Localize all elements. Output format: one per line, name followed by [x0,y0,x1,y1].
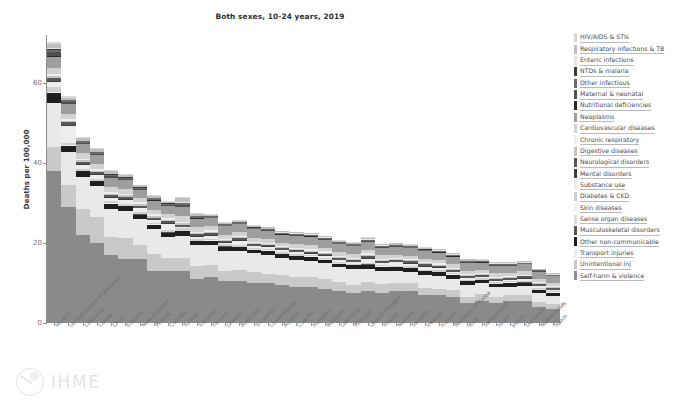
legend-item[interactable]: Other infectious [574,77,694,88]
segment [61,207,75,323]
bar-united-kingdom[interactable] [361,35,375,323]
legend-label: Mental disorders [580,169,632,180]
segment [218,226,232,234]
bar-netherlands[interactable] [532,35,546,323]
segment [318,279,332,289]
bar-sweden[interactable] [403,35,417,323]
legend-item[interactable]: Nutritional deficiencies [574,100,694,111]
ihme-globe-icon [16,368,44,396]
legend-label: Other non-communicable [580,237,659,248]
legend-swatch [574,181,577,190]
legend-item[interactable]: Respiratory infections & TB [574,43,694,54]
bar-france[interactable] [375,35,389,323]
segment [118,211,132,238]
segment [318,240,332,248]
y-tick-label: 20 [28,239,42,247]
bar-finland[interactable] [204,35,218,323]
segment [247,229,261,237]
legend-item[interactable]: Mental disorders [574,168,694,179]
segment [133,219,147,245]
bar-latvia[interactable] [90,35,104,323]
segment [47,57,61,67]
legend-item[interactable]: Other non-communicable [574,236,694,247]
segment [76,209,90,235]
bar-israel[interactable] [489,35,503,323]
segment [546,296,560,304]
bar-slovenia[interactable] [247,35,261,323]
plot-area [47,35,560,323]
bar-spain[interactable] [546,35,560,323]
bar-germany[interactable] [332,35,346,323]
segment [304,237,318,245]
bar-greece[interactable] [218,35,232,323]
legend-label: Respiratory infections & TB [580,44,664,55]
bar-united-states-of-america[interactable] [61,35,75,323]
legend-item[interactable]: NTDs & malaria [574,66,694,77]
legend-item[interactable]: Maternal & neonatal [574,89,694,100]
legend-item[interactable]: Digestive diseases [574,145,694,156]
bar-belgium[interactable] [318,35,332,323]
bar-denmark[interactable] [517,35,531,323]
segment [446,279,460,290]
legend-swatch [574,124,577,133]
y-tick-label: 60 [28,79,42,87]
bar-luxembourg[interactable] [261,35,275,323]
legend-swatch [574,237,577,246]
bar-republic-of-korea[interactable] [446,35,460,323]
legend-item[interactable]: Neoplasms [574,111,694,122]
bar-ireland[interactable] [418,35,432,323]
segment [375,248,389,256]
legend-item[interactable]: Substance use [574,179,694,190]
legend-swatch [574,33,577,42]
legend-item[interactable]: Transport injuries [574,248,694,259]
legend-item[interactable]: Cardiovascular diseases [574,123,694,134]
legend-swatch [574,135,577,144]
bar-mexico[interactable] [47,35,61,323]
bar-switzerland[interactable] [475,35,489,323]
bar-canada[interactable] [161,35,175,323]
legend-item[interactable]: HIV/AIDS & STIs [574,32,694,43]
segment [517,286,531,296]
segment [346,246,360,254]
bar-slovakia[interactable] [190,35,204,323]
legend-item[interactable]: Musculoskeletal disorders [574,225,694,236]
chart-page: Both sexes, 10-24 years, 2019 Deaths per… [0,0,697,403]
segment [460,263,474,271]
y-tick-mark [43,83,47,84]
bar-new-zealand[interactable] [133,35,147,323]
segment [133,190,147,199]
legend-label: Nutritional deficiencies [580,100,651,111]
legend-item[interactable]: Chronic respiratory [574,134,694,145]
bar-italy[interactable] [460,35,474,323]
legend-item[interactable]: Diabetes & CKD [574,191,694,202]
segment [361,282,375,291]
segment [432,276,446,289]
y-axis-title: Deaths per 100,000 [22,100,31,240]
legend-item[interactable]: Neurological disorders [574,157,694,168]
bar-portugal[interactable] [346,35,360,323]
legend-item[interactable]: Self-harm & violence [574,270,694,281]
segment [175,236,189,258]
segment [232,270,246,281]
bar-australia[interactable] [232,35,246,323]
legend-item[interactable]: Skin diseases [574,202,694,213]
segment [289,277,303,287]
legend-item[interactable]: Enteric infections [574,55,694,66]
segment [104,237,118,255]
segment [332,267,346,282]
segment [346,269,360,285]
legend-item[interactable]: Sense organ diseases [574,214,694,225]
bar-iceland[interactable] [432,35,446,323]
bar-czechia[interactable] [289,35,303,323]
bar-austria[interactable] [275,35,289,323]
y-tick-label: 40 [28,159,42,167]
bar-lithuania[interactable] [76,35,90,323]
bar-hungary[interactable] [304,35,318,323]
segment [190,245,204,266]
bar-japan[interactable] [503,35,517,323]
legend-item[interactable]: Unintentional inj [574,259,694,270]
bar-norway[interactable] [389,35,403,323]
segment [275,275,289,285]
bar-poland[interactable] [147,35,161,323]
bar-turkey[interactable] [175,35,189,323]
